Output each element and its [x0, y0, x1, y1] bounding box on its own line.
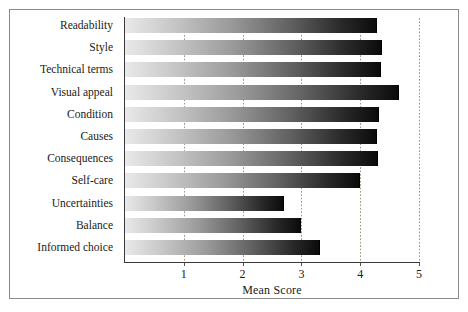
category-label-causes: Causes — [0, 129, 119, 144]
category-label-style: Style — [0, 40, 119, 55]
x-tick-label: 4 — [348, 267, 372, 281]
category-label-consequences: Consequences — [0, 151, 119, 166]
bar-readability — [125, 18, 377, 33]
bar-row — [125, 85, 399, 100]
bar-row — [125, 151, 378, 166]
bar-uncertainties — [125, 196, 284, 211]
tick-mark-1 — [184, 263, 185, 266]
bar-row — [125, 62, 381, 77]
y-axis-category-labels: ReadabilityStyleTechnical termsVisual ap… — [0, 0, 119, 312]
x-axis-title: Mean Score — [124, 283, 420, 298]
bar-row — [125, 40, 382, 55]
category-label-self-care: Self-care — [0, 173, 119, 188]
tick-mark-3 — [301, 263, 302, 266]
category-label-technical-terms: Technical terms — [0, 62, 119, 77]
figure: ReadabilityStyleTechnical termsVisual ap… — [0, 0, 468, 312]
plot-area — [125, 18, 420, 262]
bar-row — [125, 240, 320, 255]
bar-style — [125, 40, 382, 55]
category-label-informed-choice: Informed choice — [0, 240, 119, 255]
bar-row — [125, 218, 301, 233]
bar-balance — [125, 218, 301, 233]
x-tick-label: 3 — [289, 267, 313, 281]
category-label-balance: Balance — [0, 218, 119, 233]
tick-mark-2 — [243, 263, 244, 266]
bar-row — [125, 18, 377, 33]
bar-causes — [125, 129, 377, 144]
tick-mark-5 — [419, 263, 420, 266]
bar-technical-terms — [125, 62, 381, 77]
category-label-visual-appeal: Visual appeal — [0, 85, 119, 100]
x-tick-label: 2 — [231, 267, 255, 281]
bar-row — [125, 107, 379, 122]
x-axis-line — [124, 262, 420, 263]
bar-row — [125, 196, 284, 211]
bar-row — [125, 129, 377, 144]
x-tick-label: 5 — [407, 267, 431, 281]
x-tick-label: 1 — [172, 267, 196, 281]
bar-self-care — [125, 173, 360, 188]
bar-informed-choice — [125, 240, 320, 255]
tick-mark-4 — [360, 263, 361, 266]
bar-condition — [125, 107, 379, 122]
bar-consequences — [125, 151, 378, 166]
bar-row — [125, 173, 360, 188]
category-label-uncertainties: Uncertainties — [0, 196, 119, 211]
category-label-readability: Readability — [0, 18, 119, 33]
bar-visual-appeal — [125, 85, 399, 100]
category-label-condition: Condition — [0, 107, 119, 122]
